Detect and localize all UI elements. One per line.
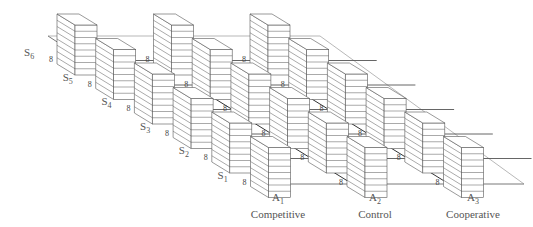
column-label-A1: A1Competitive — [233, 191, 323, 221]
cell-count-label: 8 — [184, 80, 188, 89]
cell-count-label: 8 — [242, 55, 246, 64]
row-label-S5: S5 — [63, 71, 73, 86]
condition-name: Control — [330, 208, 420, 221]
cell-count-label: 8 — [223, 104, 227, 113]
cell-count-label: 8 — [49, 55, 53, 64]
cell-count-label: 8 — [300, 153, 304, 162]
cell-count-label: 8 — [88, 80, 92, 89]
cell-count-label: 8 — [262, 129, 266, 138]
cell-count-label: 8 — [165, 129, 169, 138]
cell-count-label: 8 — [204, 153, 208, 162]
column-label-A3: A3Cooperative — [428, 191, 518, 221]
cell-count-label: 8 — [436, 178, 440, 187]
cell-count-label: 8 — [397, 153, 401, 162]
row-label-S1: S1 — [218, 169, 228, 184]
row-label-S6: S6 — [24, 46, 34, 61]
row-label-S2: S2 — [179, 144, 189, 159]
cell-count-label: 8 — [281, 80, 285, 89]
cell-count-label: 8 — [339, 178, 343, 187]
cell-count-label: 8 — [243, 178, 247, 187]
cell-count-label: 8 — [146, 55, 150, 64]
condition-name: Competitive — [233, 208, 323, 221]
cell-count-label: 8 — [358, 129, 362, 138]
row-label-S3: S3 — [140, 120, 150, 135]
cell-stack-S6-A1: 8 — [49, 14, 97, 75]
cell-count-label: 8 — [319, 104, 323, 113]
condition-name: Cooperative — [428, 208, 518, 221]
cell-count-label: 8 — [126, 104, 130, 113]
row-label-S4: S4 — [101, 95, 111, 110]
column-label-A2: A2Control — [330, 191, 420, 221]
